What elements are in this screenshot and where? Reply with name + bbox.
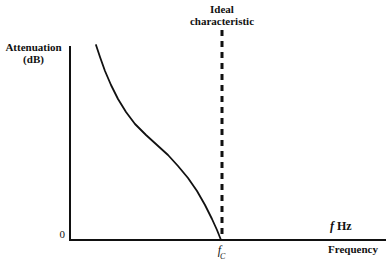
origin-tick-label: 0 (53, 228, 65, 240)
attenuation-curve (96, 45, 221, 240)
cutoff-frequency-tick-label: fC (202, 244, 242, 261)
x-axis-unit-label: f Hz (330, 220, 386, 232)
annotation-line-1: Ideal (210, 3, 234, 15)
y-axis-label: Attenuation (dB) (0, 41, 67, 65)
fc-subscript: C (220, 252, 225, 261)
frequency-unit: Hz (334, 219, 352, 233)
x-axis-name-label: Frequency (328, 243, 388, 255)
attenuation-frequency-figure: Ideal characteristic Attenuation (dB) 0 … (0, 0, 390, 271)
annotation-line-2: characteristic (142, 15, 302, 27)
y-axis-label-line-1: Attenuation (5, 41, 61, 53)
y-axis-label-line-2: (dB) (0, 53, 67, 65)
ideal-characteristic-annotation: Ideal characteristic (142, 3, 302, 27)
